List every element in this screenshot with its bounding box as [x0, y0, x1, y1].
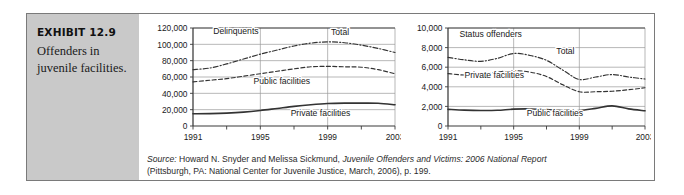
series-line-total	[193, 42, 395, 70]
exhibit-title: Offenders in juvenile facilities.	[37, 43, 130, 76]
series-annotation: Status offenders	[459, 29, 521, 39]
source-authors: Howard N. Snyder and Melissa Sickmund,	[177, 154, 343, 164]
exhibit-caption-panel: EXHIBIT 12.9 Offenders in juvenile facil…	[27, 14, 139, 180]
y-tick-label: 6,000	[422, 62, 443, 72]
y-tick-label: 0	[183, 121, 188, 131]
series-annotation: Total	[331, 27, 349, 37]
y-tick-label: 2,000	[422, 102, 443, 112]
exhibit-number: EXHIBIT 12.9	[37, 26, 130, 38]
exhibit-content: 020,00040,00060,00080,000100,000120,0001…	[139, 14, 654, 180]
x-tick-label: 1999	[318, 132, 337, 142]
series-annotation: Private facilities	[291, 108, 351, 118]
x-tick-label: 2003	[386, 132, 401, 142]
charts-container: 020,00040,00060,00080,000100,000120,0001…	[139, 20, 656, 148]
chart-delinquents: 020,00040,00060,00080,000100,000120,0001…	[139, 20, 401, 148]
x-tick-label: 1999	[570, 132, 589, 142]
series-annotation: Public facilities	[527, 108, 583, 118]
y-tick-label: 60,000	[162, 72, 188, 82]
x-tick-label: 1991	[439, 132, 458, 142]
x-tick-label: 2003	[636, 132, 651, 142]
series-annotation: Delinquents	[213, 26, 258, 36]
y-tick-label: 120,000	[157, 23, 188, 33]
x-tick-label: 1991	[184, 132, 203, 142]
x-tick-label: 1995	[504, 132, 523, 142]
chart-plot-0: 020,00040,00060,00080,000100,000120,0001…	[157, 23, 401, 141]
source-publication-title: Juvenile Offenders and Victims: 2006 Nat…	[342, 154, 546, 164]
y-tick-label: 20,000	[162, 105, 188, 115]
chart-status-offenders: 02,0004,0006,0008,00010,0001991199519992…	[401, 20, 651, 148]
y-tick-label: 100,000	[157, 40, 188, 50]
y-tick-label: 8,000	[422, 43, 443, 53]
series-annotation: Total	[556, 46, 574, 56]
y-tick-label: 40,000	[162, 89, 188, 99]
y-tick-label: 4,000	[422, 82, 443, 92]
x-tick-label: 1995	[251, 132, 270, 142]
exhibit-figure: EXHIBIT 12.9 Offenders in juvenile facil…	[26, 13, 655, 181]
source-publisher: (Pittsburgh, PA: National Center for Juv…	[147, 165, 647, 177]
y-tick-label: 80,000	[162, 56, 188, 66]
series-annotation: Private facilities	[464, 70, 524, 80]
chart-plot-1: 02,0004,0006,0008,00010,0001991199519992…	[417, 23, 651, 141]
source-label: Source:	[147, 154, 177, 164]
source-note: Source: Howard N. Snyder and Melissa Sic…	[147, 153, 647, 178]
y-tick-label: 0	[438, 121, 443, 131]
series-annotation: Public facilities	[254, 76, 310, 86]
y-tick-label: 10,000	[417, 23, 443, 33]
